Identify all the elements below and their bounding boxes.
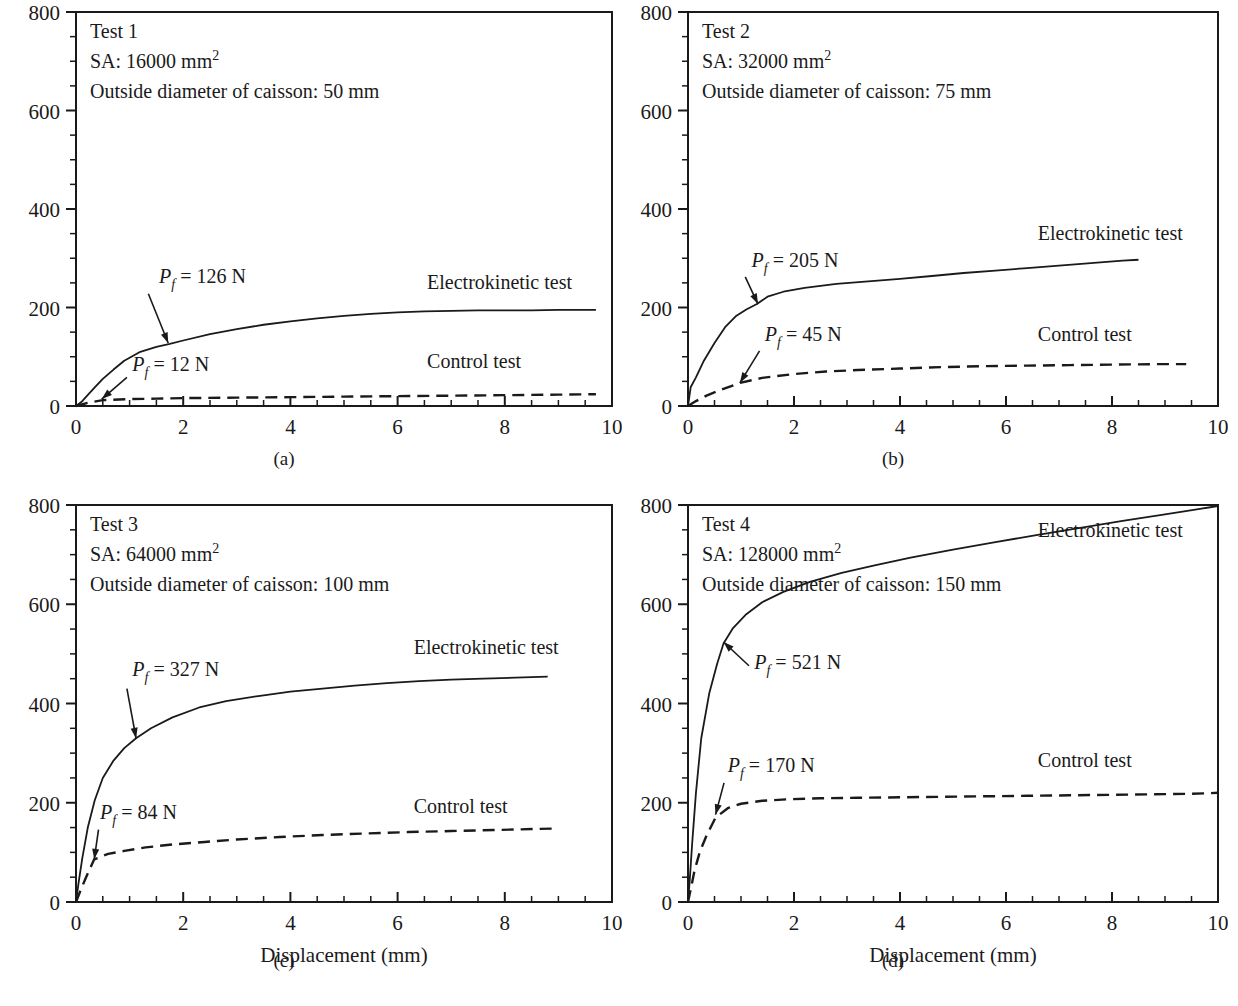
panel-test-label: Test 3: [90, 513, 138, 535]
pf-control-label: Pf = 170 N: [727, 754, 815, 781]
y-tick-label: 800: [29, 494, 61, 518]
panel-caption-c: (c): [224, 950, 344, 972]
panel-svg-d: 02468100200400600800Displacement (mm)Tes…: [626, 491, 1228, 968]
y-tick-label: 800: [641, 494, 673, 518]
x-tick-label: 10: [1208, 415, 1229, 439]
pf-control-label: Pf = 45 N: [764, 323, 842, 350]
y-tick-label: 800: [641, 1, 673, 25]
panel-surface-area-label: SA: 16000 mm2: [90, 48, 219, 72]
panel-diameter-label: Outside diameter of caisson: 75 mm: [702, 80, 992, 102]
x-tick-label: 8: [1107, 415, 1118, 439]
x-tick-label: 0: [683, 911, 694, 935]
chart-panel-a: 02468100200400600800Test 1SA: 16000 mm2O…: [0, 0, 622, 442]
arrow-head-icon: [750, 293, 758, 304]
x-tick-label: 10: [1208, 911, 1229, 935]
y-tick-labels: 0200400600800: [641, 494, 673, 915]
panel-test-label: Test 1: [90, 20, 138, 42]
y-tick-label: 0: [50, 891, 61, 915]
panel-surface-area-label: SA: 64000 mm2: [90, 541, 219, 565]
panel-test-label: Test 4: [702, 513, 750, 535]
y-tick-label: 200: [641, 297, 673, 321]
x-tick-labels: 0246810: [683, 911, 1228, 935]
series-electrokinetic-test: [688, 506, 1218, 902]
x-tick-label: 0: [683, 415, 694, 439]
x-tick-label: 6: [392, 911, 403, 935]
pf-control-annotation: Pf = 84 N: [92, 801, 177, 860]
x-tick-label: 4: [895, 415, 906, 439]
pf-electrokinetic-label: Pf = 521 N: [753, 651, 841, 678]
x-tick-label: 10: [602, 911, 623, 935]
panel-svg-a: 02468100200400600800Test 1SA: 16000 mm2O…: [0, 0, 622, 442]
y-tick-label: 0: [662, 891, 673, 915]
electrokinetic-label: Electrokinetic test: [427, 271, 572, 293]
y-tick-labels: 0200400600800: [29, 494, 61, 915]
electrokinetic-label: Electrokinetic test: [1038, 222, 1183, 244]
y-tick-label: 0: [50, 395, 61, 419]
series-control-test: [688, 793, 1218, 902]
figure-panel-grid: 02468100200400600800Test 1SA: 16000 mm2O…: [0, 0, 1238, 1006]
x-tick-label: 8: [500, 415, 511, 439]
x-tick-label: 6: [1001, 415, 1012, 439]
x-tick-label: 2: [178, 911, 189, 935]
x-tick-labels: 0246810: [71, 415, 622, 439]
x-tick-label: 8: [1107, 911, 1118, 935]
pf-electrokinetic-annotation: Pf = 126 N: [148, 265, 246, 343]
y-tick-label: 400: [641, 693, 673, 717]
x-tick-label: 0: [71, 415, 82, 439]
panel-surface-area-label: SA: 32000 mm2: [702, 48, 831, 72]
control-label: Control test: [1038, 749, 1132, 771]
panel-caption-b: (b): [833, 448, 953, 470]
arrow-head-icon: [161, 332, 168, 343]
pf-control-label: Pf = 12 N: [131, 353, 209, 380]
pf-control-annotation: Pf = 12 N: [102, 353, 209, 400]
arrow-head-icon: [131, 727, 138, 738]
x-tick-label: 2: [789, 911, 800, 935]
panel-caption-a: (a): [224, 448, 344, 470]
y-tick-label: 800: [29, 1, 61, 25]
panel-diameter-label: Outside diameter of caisson: 100 mm: [90, 573, 390, 595]
y-tick-label: 600: [29, 593, 61, 617]
control-label: Control test: [1038, 323, 1132, 345]
x-tick-label: 8: [500, 911, 511, 935]
x-tick-labels: 0246810: [683, 415, 1228, 439]
y-tick-label: 600: [29, 100, 61, 124]
x-tick-label: 6: [392, 415, 403, 439]
panel-surface-area-label: SA: 128000 mm2: [702, 541, 841, 565]
pf-electrokinetic-label: Pf = 126 N: [158, 265, 246, 292]
series-control-test: [76, 829, 553, 902]
y-tick-labels: 0200400600800: [641, 1, 673, 419]
y-tick-label: 200: [29, 792, 61, 816]
x-tick-label: 4: [895, 911, 906, 935]
x-tick-label: 6: [1001, 911, 1012, 935]
pf-electrokinetic-label: Pf = 327 N: [131, 658, 219, 685]
x-tick-label: 10: [602, 415, 623, 439]
chart-panel-b: 02468100200400600800Test 2SA: 32000 mm2O…: [626, 0, 1228, 442]
pf-electrokinetic-annotation: Pf = 205 N: [745, 249, 838, 304]
pf-control-annotation: Pf = 45 N: [740, 323, 842, 382]
y-tick-label: 600: [641, 100, 673, 124]
panel-diameter-label: Outside diameter of caisson: 150 mm: [702, 573, 1002, 595]
chart-panel-d: 02468100200400600800Displacement (mm)Tes…: [626, 491, 1228, 968]
x-tick-labels: 0246810: [71, 911, 622, 935]
panel-diameter-label: Outside diameter of caisson: 50 mm: [90, 80, 380, 102]
control-label: Control test: [427, 350, 521, 372]
series-electrokinetic-test: [76, 677, 548, 902]
y-tick-label: 400: [29, 693, 61, 717]
panel-svg-b: 02468100200400600800Test 2SA: 32000 mm2O…: [626, 0, 1228, 442]
panel-test-label: Test 2: [702, 20, 750, 42]
y-tick-label: 0: [662, 395, 673, 419]
control-label: Control test: [414, 795, 508, 817]
y-tick-label: 200: [29, 297, 61, 321]
x-tick-label: 4: [285, 415, 296, 439]
pf-electrokinetic-label: Pf = 205 N: [751, 249, 839, 276]
chart-panel-c: 02468100200400600800Displacement (mm)Tes…: [0, 491, 622, 968]
y-tick-labels: 0200400600800: [29, 1, 61, 419]
y-tick-label: 600: [641, 593, 673, 617]
electrokinetic-label: Electrokinetic test: [1038, 519, 1183, 541]
panel-caption-d: (d): [833, 950, 953, 972]
x-tick-label: 2: [789, 415, 800, 439]
pf-control-label: Pf = 84 N: [99, 801, 177, 828]
x-tick-label: 0: [71, 911, 82, 935]
panel-svg-c: 02468100200400600800Displacement (mm)Tes…: [0, 491, 622, 968]
y-tick-label: 400: [641, 198, 673, 222]
